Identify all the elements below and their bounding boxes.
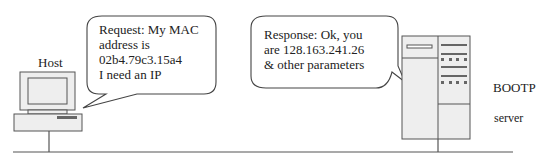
host-label: Host	[38, 55, 63, 70]
diagram-canvas	[0, 0, 553, 160]
server-label-bootp: BOOTP	[493, 80, 536, 95]
response-line-1: Response: Ok, you	[264, 27, 364, 42]
request-line-1: Request: My MAC	[99, 22, 199, 37]
request-line-2: address is	[99, 37, 199, 52]
server-icon	[402, 36, 470, 139]
request-line-4: I need an IP	[99, 67, 199, 82]
server-label-server: server	[494, 111, 523, 126]
response-line-3: & other parameters	[264, 57, 364, 72]
request-text: Request: My MAC address is 02b4.79c3.15a…	[99, 22, 199, 82]
request-line-3: 02b4.79c3.15a4	[99, 52, 199, 67]
host-computer-icon	[14, 72, 82, 131]
response-text: Response: Ok, you are 128.163.241.26 & o…	[264, 27, 364, 72]
response-line-2: are 128.163.241.26	[264, 42, 364, 57]
